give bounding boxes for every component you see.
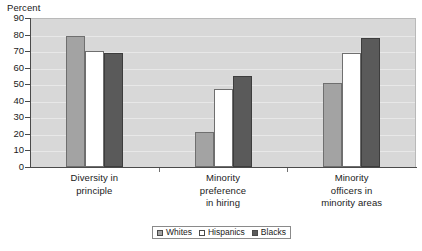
- category-label-line: officers in: [287, 185, 416, 198]
- category-label-line: Minority: [159, 172, 288, 185]
- legend-item-hispanics: Hispanics: [199, 228, 245, 237]
- y-axis-tick: [25, 35, 30, 36]
- bar-blacks-1: [104, 53, 123, 167]
- legend-item-whites: Whites: [157, 228, 192, 237]
- bar-whites-2: [195, 132, 214, 167]
- legend-label: Hispanics: [208, 228, 245, 237]
- legend-label: Whites: [166, 228, 192, 237]
- y-axis-tick: [25, 68, 30, 69]
- legend-swatch-whites-icon: [157, 230, 163, 236]
- category-label-line: in hiring: [159, 197, 288, 210]
- y-axis-tick: [25, 84, 30, 85]
- y-axis-tick-label: 70: [2, 46, 24, 56]
- y-axis-tick: [25, 167, 30, 168]
- chart-legend: WhitesHispanicsBlacks: [152, 226, 291, 239]
- y-axis-tick: [25, 18, 30, 19]
- bar-blacks-2: [233, 76, 252, 167]
- category-label-line: minority areas: [287, 197, 416, 210]
- y-axis-tick-label: 50: [2, 79, 24, 89]
- category-label-line: preference: [159, 185, 288, 198]
- category-label-line: Diversity in: [30, 172, 159, 185]
- y-axis-tick: [25, 134, 30, 135]
- y-axis-tick-labels: 9080706050403020100: [0, 0, 24, 251]
- y-axis-tick-label: 10: [2, 145, 24, 155]
- legend-swatch-hispanics-icon: [199, 230, 205, 236]
- y-axis-tick: [25, 117, 30, 118]
- category-label-line: Minority: [287, 172, 416, 185]
- bar-hispanics-2: [214, 89, 233, 167]
- y-axis-tick-label: 90: [2, 13, 24, 23]
- bar-whites-1: [66, 36, 85, 167]
- y-axis-tick: [25, 150, 30, 151]
- y-axis-tick: [25, 51, 30, 52]
- category-label-line: principle: [30, 185, 159, 198]
- y-axis-line: [30, 18, 31, 168]
- y-axis-tick-label: 80: [2, 30, 24, 40]
- category-label-3: Minorityofficers inminority areas: [287, 172, 416, 210]
- legend-item-blacks: Blacks: [252, 228, 286, 237]
- bar-hispanics-3: [342, 53, 361, 167]
- plot-area: [30, 18, 416, 167]
- x-axis-line: [30, 167, 417, 168]
- bar-blacks-3: [361, 38, 380, 167]
- bar-chart: Percent 9080706050403020100 Diversity in…: [0, 0, 422, 251]
- bar-hispanics-1: [85, 51, 104, 167]
- y-axis-tick-label: 40: [2, 96, 24, 106]
- category-label-1: Diversity inprinciple: [30, 172, 159, 197]
- y-axis-tick-label: 0: [2, 162, 24, 172]
- y-axis-tick-label: 60: [2, 63, 24, 73]
- gridline: [30, 36, 415, 37]
- category-label-2: Minoritypreferencein hiring: [159, 172, 288, 210]
- bar-whites-3: [323, 83, 342, 167]
- y-axis-tick: [25, 101, 30, 102]
- legend-label: Blacks: [261, 228, 286, 237]
- y-axis-tick-label: 30: [2, 112, 24, 122]
- y-axis-tick-label: 20: [2, 129, 24, 139]
- legend-swatch-blacks-icon: [252, 230, 258, 236]
